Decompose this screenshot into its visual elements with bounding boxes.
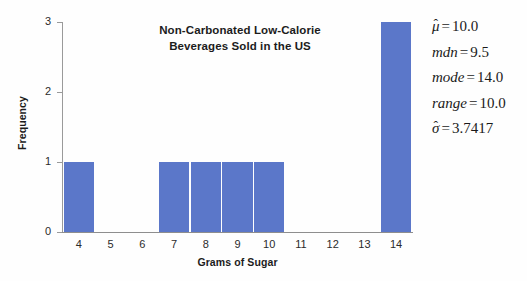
hat-accent: ˆ (433, 114, 438, 140)
equals-sign: = (440, 18, 452, 34)
statistic-value: 3.7417 (452, 120, 493, 136)
y-tick-label: 2 (11, 86, 51, 97)
equals-sign: = (465, 69, 477, 85)
statistic-value: 10.0 (452, 18, 478, 34)
bar (191, 162, 222, 232)
y-tick-mark (57, 22, 62, 23)
plot-area (63, 22, 412, 232)
statistic-symbol: μˆ (432, 18, 440, 34)
statistic-row: mode=14.0 (432, 65, 527, 91)
bar (159, 162, 190, 232)
statistic-value: 14.0 (477, 69, 503, 85)
x-tick-label: 14 (376, 239, 416, 250)
statistic-symbol: range (432, 95, 467, 111)
statistic-symbol: mdn (432, 44, 458, 60)
statistics-panel: μˆ=10.0mdn=9.5mode=14.0range=10.0σˆ=3.74… (432, 14, 527, 142)
hat-accent: ˆ (434, 12, 439, 38)
equals-sign: = (458, 44, 470, 60)
statistic-row: mdn=9.5 (432, 40, 527, 66)
bar (64, 162, 95, 232)
y-tick-mark (57, 232, 62, 233)
y-tick-label: 3 (11, 16, 51, 27)
x-axis-line (62, 232, 413, 233)
statistic-row: σˆ=3.7417 (432, 116, 527, 142)
y-tick-label: 0 (11, 226, 51, 237)
statistic-row: range=10.0 (432, 91, 527, 117)
bar (222, 162, 253, 232)
statistic-symbol: mode (432, 69, 465, 85)
equals-sign: = (467, 95, 479, 111)
statistic-value: 10.0 (479, 95, 505, 111)
y-tick-label: 1 (11, 156, 51, 167)
histogram-figure: Non-Carbonated Low-Calorie Beverages Sol… (0, 0, 527, 281)
y-tick-mark (57, 162, 62, 163)
statistic-row: μˆ=10.0 (432, 14, 527, 40)
bar (381, 22, 412, 232)
bar (254, 162, 285, 232)
statistic-symbol: σˆ (432, 120, 439, 136)
x-axis-title: Grams of Sugar (63, 256, 412, 268)
equals-sign: = (439, 120, 451, 136)
y-tick-mark (57, 92, 62, 93)
statistic-value: 9.5 (470, 44, 489, 60)
